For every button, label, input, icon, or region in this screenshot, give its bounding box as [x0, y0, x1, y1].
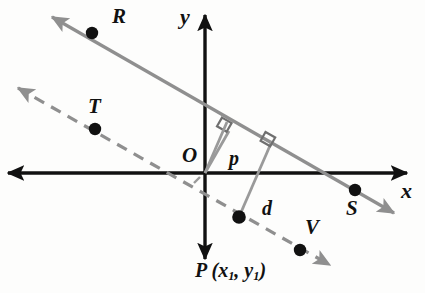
point-r — [86, 27, 98, 39]
geometry-figure: R T S V y x O p d P (x1, y1) — [0, 0, 425, 293]
point-p — [232, 210, 246, 224]
p-x-var: x — [218, 259, 228, 281]
label-point-p-coordinates: P (x1, y1) — [195, 260, 266, 282]
point-v — [294, 244, 306, 256]
segment-p-stem — [205, 122, 227, 173]
label-point-t: T — [88, 96, 101, 117]
p-name: P — [195, 259, 206, 281]
axes-group — [8, 15, 407, 259]
label-segment-p: p — [229, 148, 239, 168]
label-segment-d: d — [262, 198, 272, 218]
p-open-paren: ( — [206, 259, 218, 281]
label-point-s: S — [346, 198, 358, 219]
label-point-v: V — [305, 217, 319, 238]
p-close-paren: ) — [259, 259, 266, 281]
line-tv — [18, 88, 330, 265]
p-comma: , — [234, 259, 244, 281]
label-x-axis: x — [401, 180, 412, 202]
point-t — [89, 123, 101, 135]
label-y-axis: y — [180, 6, 190, 28]
label-origin: O — [182, 145, 197, 166]
line-rs — [52, 17, 394, 213]
label-point-r: R — [112, 6, 126, 27]
origin-crossing-tick — [194, 177, 200, 183]
point-s — [349, 184, 361, 196]
p-y-var: y — [244, 259, 253, 281]
diagram-canvas — [0, 0, 425, 293]
